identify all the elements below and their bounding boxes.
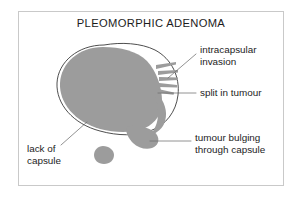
label-lack-of-capsule-line1: lack of xyxy=(27,143,56,154)
label-intracapsular-invasion-line1: intracapsular xyxy=(200,44,257,55)
label-tumour-bulging-line1: tumour bulging xyxy=(195,132,260,143)
label-lack-of-capsule-line2: capsule xyxy=(27,155,62,166)
label-tumour-bulging-line2: through capsule xyxy=(195,144,266,155)
satellite-nodule xyxy=(94,146,114,164)
label-lack-of-capsule: lack of capsule xyxy=(27,143,62,166)
figure-title: PLEOMORPHIC ADENOMA xyxy=(77,17,226,29)
diagram-canvas: PLEOMORPHIC ADENOMA intracapsular invasi… xyxy=(0,0,302,200)
label-intracapsular-invasion-line2: invasion xyxy=(200,56,236,67)
label-tumour-bulging: tumour bulging through capsule xyxy=(195,132,266,155)
leader-line-lack-of-capsule xyxy=(61,122,87,145)
label-intracapsular-invasion: intracapsular invasion xyxy=(200,44,257,67)
label-split-in-tumour-line1: split in tumour xyxy=(200,87,262,98)
label-split-in-tumour: split in tumour xyxy=(200,87,262,98)
invasion-fingers xyxy=(156,62,178,95)
